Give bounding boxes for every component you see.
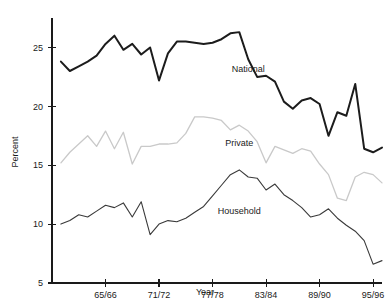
y-axis-title: Percent — [10, 136, 20, 168]
x-axis-ticks: 65/6671/7277/7883/8489/9095/96 — [94, 279, 384, 300]
x-axis-title: Year — [196, 287, 214, 297]
x-tick-label: 83/84 — [255, 290, 278, 300]
series-line-private — [61, 117, 382, 201]
x-tick-label: 95/96 — [362, 290, 385, 300]
series-label-national: National — [232, 64, 265, 74]
axes-group — [52, 18, 382, 283]
x-tick-label: 89/90 — [308, 290, 331, 300]
series-line-household — [61, 170, 382, 264]
y-tick-label: 15 — [33, 160, 43, 170]
series-lines — [61, 32, 382, 264]
y-tick-label: 5 — [38, 278, 43, 288]
x-tick-label: 65/66 — [94, 290, 117, 300]
x-tick-label: 71/72 — [148, 290, 171, 300]
series-label-household: Household — [218, 206, 261, 216]
line-chart-plot: 510152025 65/6671/7277/7883/8489/9095/96… — [0, 0, 391, 303]
series-line-national — [61, 32, 382, 152]
series-annotations: NationalPrivateHousehold — [218, 64, 265, 215]
y-tick-label: 10 — [33, 219, 43, 229]
y-tick-label: 20 — [33, 102, 43, 112]
chart-container: 510152025 65/6671/7277/7883/8489/9095/96… — [0, 0, 391, 303]
y-tick-label: 25 — [33, 43, 43, 53]
series-label-private: Private — [225, 138, 253, 148]
